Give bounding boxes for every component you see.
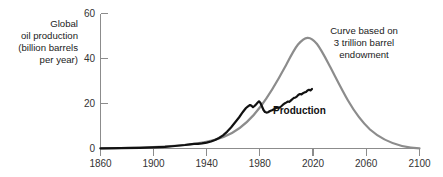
model-annotation-line-2: 3 trillion barrel	[334, 37, 394, 48]
y-tick-label-60: 60	[84, 8, 96, 19]
y-axis-title-line-3: (billion barrels	[18, 42, 78, 53]
model-curve-annotation: Curve based on 3 trillion barrel endowme…	[330, 25, 398, 60]
y-axis-tick-labels: 60 40 20 0	[84, 8, 96, 154]
chart-figure: 60 40 20 0 1860 1900 1940 1980 2020 2060…	[0, 0, 443, 177]
y-axis-title-line-2: oil production	[21, 30, 78, 41]
y-axis-title: Global oil production (billion barrels p…	[18, 18, 78, 65]
production-series-annotation: Production	[273, 105, 326, 116]
x-tick-label-1980: 1980	[249, 158, 272, 169]
x-tick-label-1860: 1860	[89, 158, 112, 169]
x-tick-label-1900: 1900	[142, 158, 165, 169]
x-axis-tick-labels: 1860 1900 1940 1980 2020 2060 2100	[89, 158, 431, 169]
y-axis-title-line-4: per year)	[40, 54, 78, 65]
x-tick-label-2020: 2020	[302, 158, 325, 169]
y-tick-label-20: 20	[84, 98, 96, 109]
y-axis-ticks	[101, 14, 108, 149]
y-tick-label-0: 0	[89, 143, 95, 154]
production-curve	[101, 89, 313, 148]
production-label: Production	[273, 105, 326, 116]
model-annotation-line-3: endowment	[339, 49, 389, 60]
y-tick-label-40: 40	[84, 53, 96, 64]
y-axis-title-line-1: Global	[50, 18, 78, 29]
x-tick-label-2060: 2060	[355, 158, 378, 169]
x-tick-label-1940: 1940	[196, 158, 219, 169]
x-tick-label-2100: 2100	[408, 158, 431, 169]
oil-production-chart: 60 40 20 0 1860 1900 1940 1980 2020 2060…	[0, 0, 443, 177]
model-annotation-line-1: Curve based on	[330, 25, 398, 36]
x-axis-ticks	[101, 149, 420, 156]
